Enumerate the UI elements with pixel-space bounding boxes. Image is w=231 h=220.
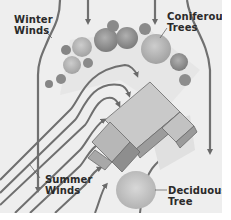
label-summer-line2: Winds [45, 185, 92, 196]
label-conif-line1: Coniferous [167, 11, 222, 22]
label-decid-line2: Tree [168, 196, 222, 207]
label-winter-line1: Winter [14, 14, 53, 25]
house [88, 82, 197, 172]
label-summer-winds: Summer Winds [45, 174, 92, 196]
label-conif-line2: Trees [167, 22, 222, 33]
label-deciduous-tree: Deciduous Tree [168, 185, 222, 207]
diagram-panel: Winter Winds Coniferous Trees Summer Win… [0, 0, 222, 213]
label-decid-line1: Deciduous [168, 185, 222, 196]
label-coniferous-trees: Coniferous Trees [167, 11, 222, 33]
label-summer-line1: Summer [45, 174, 92, 185]
label-winter-line2: Winds [14, 25, 53, 36]
deciduous-tree [116, 171, 156, 209]
label-winter-winds: Winter Winds [14, 14, 53, 36]
